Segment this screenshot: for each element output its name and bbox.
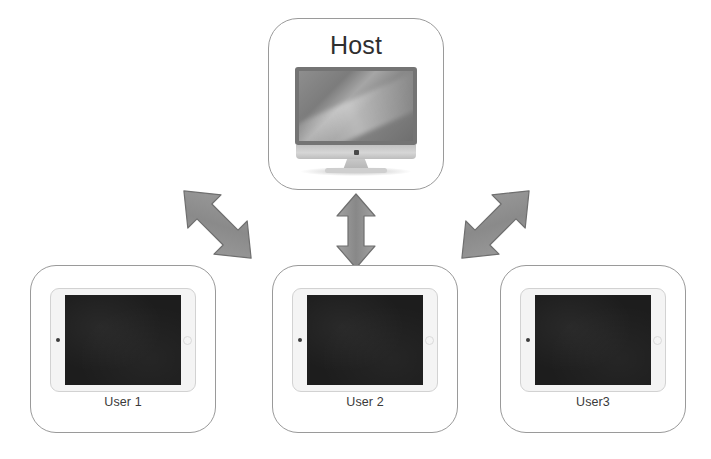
monitor-stand-base: [325, 168, 387, 173]
tablet-home-button: [653, 336, 662, 345]
host-label: Host: [269, 31, 443, 59]
user-node[interactable]: User 1: [30, 265, 216, 433]
tablet-camera-dot: [526, 338, 530, 342]
tablet-home-button: [425, 336, 434, 345]
tablet-icon: [292, 288, 438, 392]
tablet-camera-dot: [56, 338, 60, 342]
user-label: User 1: [31, 395, 215, 410]
monitor-bezel: [295, 67, 417, 145]
double-arrow-diagonal-up-left-icon: [443, 172, 548, 277]
monitor-logo-dot: [354, 150, 359, 155]
desktop-computer-icon: [295, 67, 417, 175]
user-label: User 2: [273, 395, 457, 410]
tablet-camera-dot: [298, 338, 302, 342]
tablet-screen: [307, 295, 423, 385]
user-node[interactable]: User3: [500, 265, 686, 433]
monitor-screen: [299, 71, 413, 141]
tablet-screen: [65, 295, 181, 385]
host-node[interactable]: Host: [268, 18, 444, 190]
diagram-canvas: Host: [0, 0, 711, 459]
screen-highlight: [299, 71, 413, 141]
tablet-screen: [535, 295, 651, 385]
user-label: User3: [501, 395, 685, 410]
tablet-home-button: [183, 336, 192, 345]
user-node[interactable]: User 2: [272, 265, 458, 433]
double-arrow-vertical-icon: [330, 192, 382, 270]
tablet-icon: [50, 288, 196, 392]
tablet-icon: [520, 288, 666, 392]
double-arrow-diagonal-up-right-icon: [165, 172, 270, 277]
